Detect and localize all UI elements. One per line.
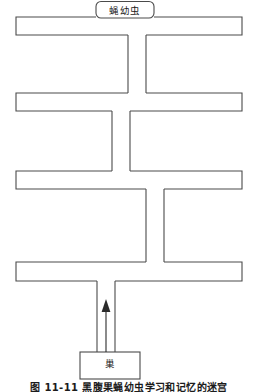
corridor-3-right-wall (130, 171, 242, 189)
maze-corridor-walls (16, 17, 242, 352)
corridor-1-right-wall (146, 17, 242, 35)
maze-schematic (0, 0, 258, 392)
corridor-4-left-wall (16, 262, 146, 281)
movement-direction-arrow (102, 299, 111, 352)
corridor-4-right-wall (115, 262, 242, 281)
larva-label-text: 蝇幼虫 (96, 2, 154, 18)
corridor-2-right-wall (130, 93, 242, 111)
corridor-3-left-wall (16, 171, 146, 189)
corridor-1-left-wall (16, 17, 128, 35)
figure-caption: 图 11-11 黑腹果蝇幼虫学习和记忆的迷宫 (0, 381, 258, 392)
figure-canvas: 蝇幼虫 巢 图 11-11 黑腹果蝇幼虫学习和记忆的迷宫 (0, 0, 258, 392)
corridor-2-left-wall (16, 93, 128, 111)
nest-label-text: 巢 (80, 352, 140, 374)
